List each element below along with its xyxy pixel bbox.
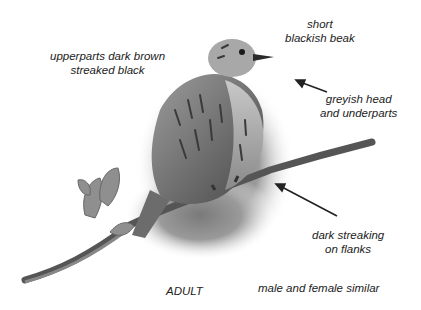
- bird-head: [208, 39, 256, 77]
- label-flanks: dark streaking on flanks: [312, 228, 384, 256]
- label-upperparts: upperparts dark brown streaked black: [50, 49, 165, 77]
- bird-illustration: [0, 0, 421, 310]
- bird-eye: [239, 49, 245, 55]
- label-beak: short blackish beak: [285, 17, 355, 45]
- bird-beak: [253, 54, 274, 61]
- leaves: [78, 168, 134, 235]
- label-head: greyish head and underparts: [320, 92, 397, 120]
- label-sex: male and female similar: [258, 281, 379, 295]
- label-age: ADULT: [166, 284, 203, 298]
